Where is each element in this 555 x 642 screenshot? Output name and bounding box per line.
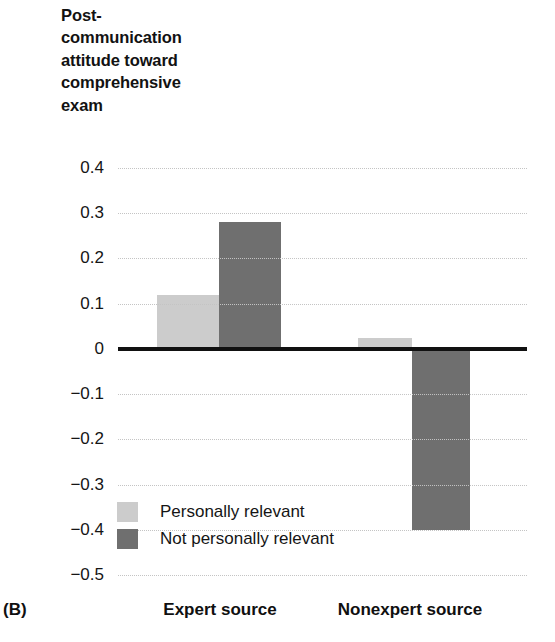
y-axis-tick-label: 0.3 <box>46 203 104 223</box>
y-axis-tick-label: 0.2 <box>46 248 104 268</box>
legend-label-not-personally-relevant: Not personally relevant <box>160 529 334 549</box>
bar <box>219 222 281 349</box>
gridline <box>118 258 527 259</box>
y-axis-tick-label: −0.1 <box>46 384 104 404</box>
y-axis-tick-label: −0.4 <box>46 520 104 540</box>
legend-item-personally-relevant: Personally relevant <box>117 498 334 525</box>
y-axis-tick-label: 0 <box>46 339 104 359</box>
chart-title: Post- communication attitude toward comp… <box>61 4 261 116</box>
legend-label-personally-relevant: Personally relevant <box>160 502 305 522</box>
gridline <box>118 304 527 305</box>
panel-label: (B) <box>3 600 27 620</box>
gridline <box>118 168 527 169</box>
y-axis: 0.40.30.20.10−0.1−0.2−0.3−0.4−0.5 <box>46 168 104 575</box>
y-axis-tick-label: −0.3 <box>46 475 104 495</box>
y-axis-tick-label: 0.1 <box>46 294 104 314</box>
chart-figure: Post- communication attitude toward comp… <box>0 0 555 642</box>
y-axis-tick-label: 0.4 <box>46 158 104 178</box>
gridline <box>118 439 527 440</box>
gridline <box>118 485 527 486</box>
y-axis-tick-label: −0.5 <box>46 565 104 585</box>
gridline <box>118 213 527 214</box>
zero-baseline <box>118 347 527 351</box>
legend-swatch-dark <box>117 529 138 549</box>
legend-swatch-light <box>117 502 138 522</box>
y-axis-tick-label: −0.2 <box>46 429 104 449</box>
x-axis-category-label: Nonexpert source <box>338 600 483 620</box>
legend-item-not-personally-relevant: Not personally relevant <box>117 525 334 552</box>
gridline <box>118 394 527 395</box>
gridline <box>118 575 527 576</box>
chart-legend: Personally relevant Not personally relev… <box>117 498 334 552</box>
x-axis-category-label: Expert source <box>163 600 276 620</box>
